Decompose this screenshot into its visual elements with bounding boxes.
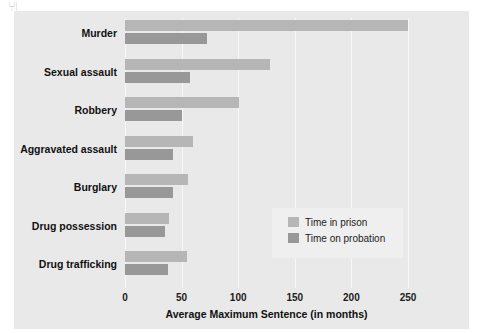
legend-label-prison: Time in prison [305,217,367,228]
legend-item-probation[interactable]: Time on probation [288,230,403,246]
bar-prison[interactable] [125,20,408,31]
chart-legend: Time in prison Time on probation [272,208,403,258]
bar-prison[interactable] [125,136,193,147]
bar-probation[interactable] [125,72,190,83]
legend-swatch-probation [288,233,299,243]
chart-panel: 050100150200250MurderSexual assaultRobbe… [14,11,469,329]
bar-prison[interactable] [125,174,188,185]
x-tick-label-200: 200 [343,292,360,303]
bar-probation[interactable] [125,226,165,237]
x-tick-label-0: 0 [122,292,128,303]
category-group: Aggravated assault [125,134,408,173]
x-tick-label-150: 150 [286,292,303,303]
bar-probation[interactable] [125,33,207,44]
category-label: Drug trafficking [39,258,117,270]
gridline-250 [408,18,409,288]
category-label: Robbery [74,104,117,116]
bar-probation[interactable] [125,149,173,160]
category-group: Murder [125,18,408,57]
x-tick-label-100: 100 [230,292,247,303]
bar-prison[interactable] [125,59,270,70]
category-label: Sexual assault [44,66,117,78]
category-label: Drug possession [32,220,117,232]
category-label: Murder [81,27,117,39]
bar-probation[interactable] [125,264,168,275]
bar-probation[interactable] [125,110,182,121]
category-label: Aggravated assault [20,143,117,155]
category-label: Burglary [74,181,117,193]
x-tick-label-50: 50 [176,292,187,303]
category-group: Robbery [125,95,408,134]
bar-prison[interactable] [125,213,169,224]
x-tick-label-250: 250 [400,292,417,303]
bar-prison[interactable] [125,251,187,262]
legend-item-prison[interactable]: Time in prison [288,214,403,230]
legend-label-probation: Time on probation [305,233,385,244]
category-group: Sexual assault [125,57,408,96]
category-group: Burglary [125,172,408,211]
x-axis-title: Average Maximum Sentence (in months) [125,308,408,320]
legend-swatch-prison [288,217,299,227]
bar-prison[interactable] [125,97,239,108]
bar-probation[interactable] [125,187,173,198]
